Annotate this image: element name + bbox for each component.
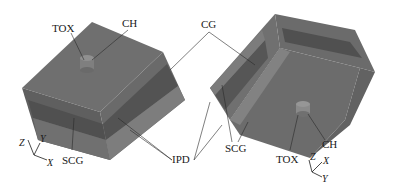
right-device-view bbox=[210, 14, 375, 158]
left-axis-z: Z bbox=[19, 137, 25, 148]
right-ch-label: CH bbox=[322, 138, 337, 150]
ipd-label: IPD bbox=[172, 153, 190, 165]
left-ch-label: CH bbox=[122, 17, 137, 29]
left-tox-label: TOX bbox=[52, 22, 74, 34]
left-device-view bbox=[22, 22, 185, 160]
right-tox-label: TOX bbox=[276, 153, 298, 165]
cg-label: CG bbox=[201, 18, 216, 30]
right-axis-x: X bbox=[322, 155, 330, 166]
right-scg-label: SCG bbox=[225, 142, 246, 154]
left-channel bbox=[80, 55, 94, 73]
right-axis-y: Y bbox=[322, 173, 329, 184]
left-scg-label: SCG bbox=[62, 154, 83, 166]
right-axis-triad: Z X Y bbox=[309, 151, 330, 184]
left-axis-x: X bbox=[46, 157, 54, 168]
diagram-canvas: TOX CH SCG CG IPD SCG TOX CH Z Y X Z X Y bbox=[0, 0, 394, 193]
right-channel bbox=[296, 101, 310, 117]
right-axis-z: Z bbox=[310, 151, 316, 162]
